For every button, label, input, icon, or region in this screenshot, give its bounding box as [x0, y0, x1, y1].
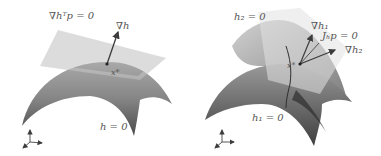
label-gradient-2: ∇h₂ — [345, 44, 362, 55]
label-point: x* — [111, 68, 120, 77]
panel-two-constraints: h₂ = 0 ∇h₁ Jₕp = 0 ∇h₂ x* h₁ = 0 — [205, 8, 362, 148]
point-marker — [105, 62, 108, 65]
label-gradient: ∇h — [116, 20, 129, 31]
point-marker — [298, 62, 301, 65]
panel-single-constraint: ∇hᵀp = 0 ∇h x* h = 0 — [22, 10, 172, 148]
axes-icon — [23, 130, 42, 148]
label-surface: h = 0 — [100, 121, 128, 132]
axes-icon — [215, 130, 234, 148]
label-surface-1: h₁ = 0 — [252, 112, 284, 123]
label-tangent-line: Jₕp = 0 — [320, 30, 358, 41]
diagram-canvas: ∇hᵀp = 0 ∇h x* h = 0 h₂ = 0 ∇h₁ Jₕp = 0 … — [0, 0, 381, 156]
label-surface-2: h₂ = 0 — [234, 11, 266, 22]
label-tangent-plane: ∇hᵀp = 0 — [49, 10, 95, 21]
label-point: x* — [287, 61, 296, 70]
